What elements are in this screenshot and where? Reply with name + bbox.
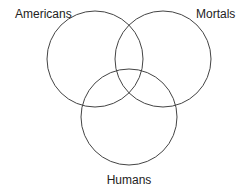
label-americans: Americans	[15, 7, 72, 21]
label-humans: Humans	[107, 173, 152, 187]
circle-humans	[81, 69, 177, 165]
venn-diagram: Americans Mortals Humans	[0, 0, 244, 192]
label-mortals: Mortals	[196, 7, 235, 21]
circle-mortals	[115, 11, 211, 107]
